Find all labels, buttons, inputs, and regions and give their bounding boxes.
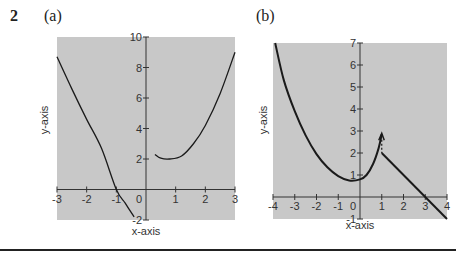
charts: -3-2-10123-2246810x-axisy-axis -4-3-2-10… [0,0,474,253]
x-tick-label: -1 [333,200,343,212]
x-tick-label: 3 [422,200,428,212]
y-tick-label: 5 [350,81,356,93]
x-tick-label: 4 [444,200,450,212]
y-tick-label: 1 [350,169,356,181]
chart-b: -4-3-2-101234-11234567x-axisy-axis [257,37,450,231]
x-tick-label: 1 [173,193,179,205]
y-tick-label: 3 [350,125,356,137]
x-axis-label: x-axis [132,225,161,237]
x-tick-label: 3 [232,193,238,205]
x-tick-label: 2 [202,193,208,205]
x-tick-label: -2 [82,193,92,205]
y-tick-label: 7 [350,37,356,49]
x-tick-label: -4 [268,200,278,212]
y-tick-label: 6 [350,59,356,71]
x-tick-label: -1 [111,193,121,205]
y-tick-label: 4 [136,123,142,135]
x-tick-label: 2 [400,200,406,212]
y-tick-label: 2 [136,153,142,165]
x-tick-label: 0 [350,200,356,212]
x-tick-label: -2 [312,200,322,212]
y-axis-label: y-axis [38,105,50,134]
y-tick-label: 4 [350,103,356,115]
x-axis-label: x-axis [346,219,375,231]
bottom-rule [0,249,456,251]
y-tick-label: 6 [136,92,142,104]
y-tick-label: 8 [136,62,142,74]
x-tick-label: -3 [52,193,62,205]
y-tick-label: 2 [350,147,356,159]
x-tick-label: 0 [136,193,142,205]
chart-a: -3-2-10123-2246810x-axisy-axis [38,31,238,237]
y-tick-label: 10 [130,31,142,43]
x-tick-label: 1 [379,200,385,212]
y-axis-label: y-axis [257,105,269,134]
x-tick-label: -3 [290,200,300,212]
